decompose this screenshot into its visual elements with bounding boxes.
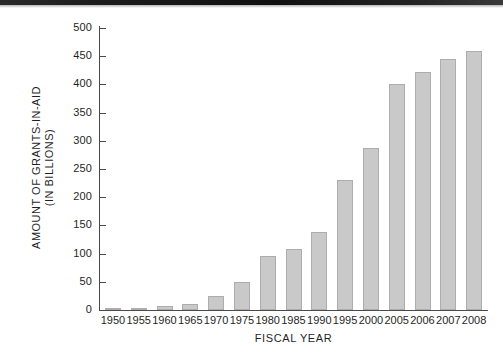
bar bbox=[182, 304, 198, 310]
y-axis-tick-label: 150 bbox=[56, 219, 92, 230]
bar bbox=[260, 256, 276, 310]
y-axis-tick-label-slot: 450 bbox=[54, 50, 92, 61]
y-axis-tick-label-slot: 0 bbox=[54, 304, 92, 315]
x-axis-tick-label: 2008 bbox=[458, 314, 490, 326]
y-axis-title-line-1: AMOUNT OF GRANTS-IN-AID bbox=[30, 86, 42, 249]
bar bbox=[286, 249, 302, 310]
y-axis-title: AMOUNT OF GRANTS-IN-AID (IN BILLIONS) bbox=[30, 53, 55, 283]
x-axis-title: FISCAL YEAR bbox=[100, 332, 487, 344]
bar bbox=[389, 84, 405, 310]
y-axis-tick bbox=[100, 310, 106, 311]
y-axis-tick-label-slot: 200 bbox=[54, 191, 92, 202]
bar bbox=[208, 296, 224, 310]
plot-area bbox=[100, 28, 487, 310]
y-axis-tick-label: 50 bbox=[56, 276, 92, 287]
bar bbox=[440, 59, 456, 310]
y-axis-tick-label-slot: 50 bbox=[54, 276, 92, 287]
y-axis-tick-label: 0 bbox=[56, 304, 92, 315]
bar bbox=[105, 308, 121, 310]
y-axis-tick-label: 300 bbox=[56, 135, 92, 146]
bar bbox=[157, 306, 173, 310]
y-axis-tick-label: 350 bbox=[56, 107, 92, 118]
y-axis-title-line-2: (IN BILLIONS) bbox=[42, 53, 55, 283]
y-axis-tick-label: 200 bbox=[56, 191, 92, 202]
bar bbox=[131, 308, 147, 310]
bar bbox=[363, 148, 379, 310]
y-axis-tick-label-slot: 100 bbox=[54, 248, 92, 259]
y-axis-tick-label: 250 bbox=[56, 163, 92, 174]
y-axis-tick-label: 500 bbox=[56, 22, 92, 33]
bar bbox=[234, 282, 250, 310]
bar-chart-figure: 050100150200250300350400450500 195019551… bbox=[0, 0, 503, 359]
y-axis-tick-label-slot: 500 bbox=[54, 22, 92, 33]
y-axis-tick-label-slot: 350 bbox=[54, 107, 92, 118]
y-axis-tick-label: 400 bbox=[56, 78, 92, 89]
x-axis-line bbox=[99, 310, 488, 311]
y-axis-tick-label-slot: 150 bbox=[54, 219, 92, 230]
y-axis-tick-label: 450 bbox=[56, 50, 92, 61]
bar bbox=[415, 72, 431, 310]
y-axis-tick-label-slot: 250 bbox=[54, 163, 92, 174]
bar bbox=[311, 232, 327, 310]
bar bbox=[337, 180, 353, 310]
y-axis-tick-label-slot: 300 bbox=[54, 135, 92, 146]
y-axis-tick-label-slot: 400 bbox=[54, 78, 92, 89]
bar bbox=[466, 51, 482, 310]
y-axis-tick-label: 100 bbox=[56, 248, 92, 259]
